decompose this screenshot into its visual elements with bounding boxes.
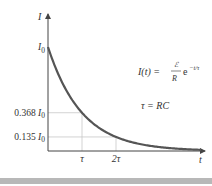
y-tick-labels: I00.368 I00.135 I0 — [14, 42, 45, 144]
rc-discharge-chart: I t I00.368 I00.135 I0 τ2τ I(t) = ℰ R e … — [0, 0, 212, 186]
x-axis-label: t — [199, 154, 202, 165]
equation-lhs: I(t) = — [137, 66, 160, 78]
equation-exp-base: e — [183, 66, 188, 77]
x-tick-labels: τ2τ — [80, 153, 121, 164]
y-tick-label-1: 0.368 I0 — [14, 108, 45, 121]
decay-curve — [48, 47, 201, 150]
equation-denominator: R — [171, 74, 177, 83]
equation-exponent: −t/τ — [189, 64, 200, 71]
equation-tau: τ = RC — [141, 100, 169, 111]
equation-numerator: ℰ — [174, 61, 179, 69]
equation-current: I(t) = ℰ R e −t/τ — [137, 61, 200, 83]
bottom-divider-bar — [0, 178, 212, 184]
svg-text:I(t) =: I(t) = — [137, 66, 160, 78]
y-tick-label-2: 0.135 I0 — [14, 132, 45, 145]
y-tick-label-0: I0 — [37, 42, 45, 55]
y-axis-label: I — [37, 11, 42, 22]
x-tick-label-1: 2τ — [112, 153, 121, 164]
x-tick-label-0: τ — [80, 153, 84, 164]
